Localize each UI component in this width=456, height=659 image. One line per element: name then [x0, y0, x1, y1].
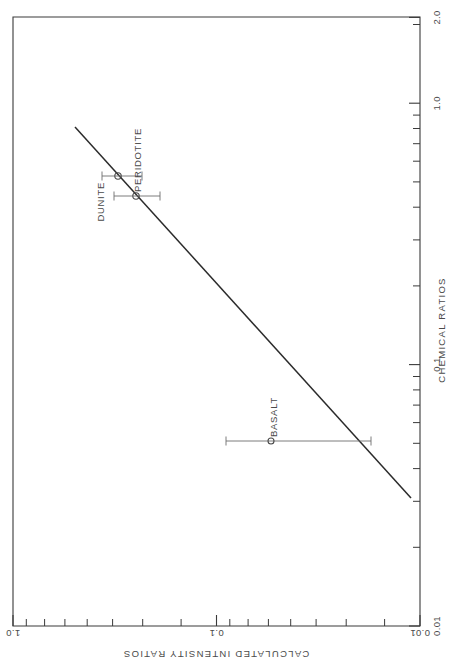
plot-background: [0, 0, 456, 659]
x-tick-label-2-0: 2.0: [431, 10, 442, 24]
y-axis-title: CALCULATED INTENSITY RATIOS: [123, 649, 310, 659]
y-tick-label-1-0: 1.0: [6, 628, 20, 639]
y-tick-label-0-1: 0.1: [209, 628, 223, 639]
log-log-scatter-plot: 0.01 0.1 1.0 2.0 CHEMICAL RATIOS 1.0 0.1…: [0, 0, 456, 659]
chart-figure: 0.01 0.1 1.0 2.0 CHEMICAL RATIOS 1.0 0.1…: [0, 0, 456, 659]
point-label-peridotite: PERIDOTITE: [132, 128, 143, 192]
x-axis-title: CHEMICAL RATIOS: [436, 277, 447, 383]
y-tick-label-0-01: 0.01: [410, 628, 430, 639]
point-label-basalt: BASALT: [268, 397, 279, 437]
point-label-dunite: DUNITE: [95, 182, 106, 222]
x-tick-label-1-0: 1.0: [431, 96, 442, 110]
x-tick-label-0-01: 0.01: [431, 616, 442, 636]
